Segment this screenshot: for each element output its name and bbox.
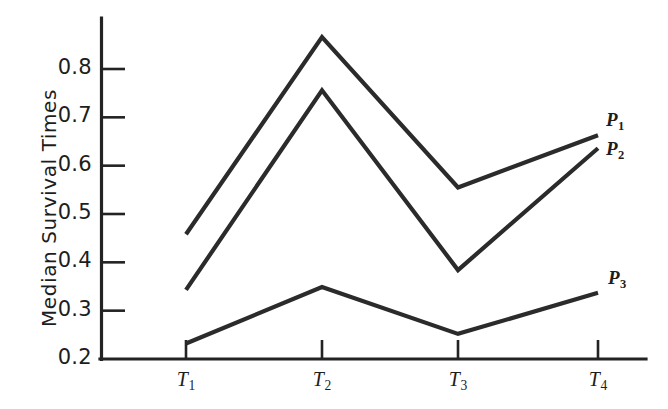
x-tick-label: T3 [449, 368, 467, 394]
y-tick-label: 0.7 [58, 103, 92, 127]
axes-group [100, 18, 646, 360]
y-tick-marks [102, 69, 125, 311]
y-tick-label: 0.8 [58, 55, 92, 79]
y-tick-label: 0.3 [58, 297, 92, 321]
chart-plot-area [0, 0, 668, 409]
chart-figure: 0.80.70.60.50.40.30.2 T1T2T3T4 P1P2P3 Me… [0, 0, 668, 409]
x-tick-label: T2 [313, 368, 331, 394]
y-axis-title: Median Survival Times [37, 63, 61, 353]
y-tick-label: 0.4 [58, 248, 92, 272]
y-tick-label: 0.2 [58, 345, 92, 369]
series-label-p3: P3 [608, 267, 626, 292]
series-lines [186, 37, 598, 343]
x-tick-label: T4 [589, 368, 607, 394]
x-tick-label: T1 [177, 368, 195, 394]
series-label-p1: P1 [606, 109, 624, 134]
y-tick-label: 0.6 [58, 152, 92, 176]
series-label-p2: P2 [606, 138, 624, 163]
x-tick-marks [186, 340, 598, 359]
series-line-p3 [186, 287, 598, 344]
series-line-p2 [186, 90, 598, 290]
y-tick-label: 0.5 [58, 200, 92, 224]
